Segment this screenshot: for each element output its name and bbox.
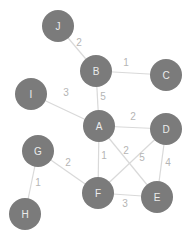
node-label: C xyxy=(162,70,169,81)
node-i: I xyxy=(15,78,47,110)
node-label: F xyxy=(95,188,101,199)
node-h: H xyxy=(9,198,41,230)
edge-weight-label: 4 xyxy=(165,157,171,168)
edge-weight-label: 2 xyxy=(65,157,71,168)
graph-svg: 215322154213 ABCDEFGHIJ xyxy=(0,0,193,240)
graph-diagram: 215322154213 ABCDEFGHIJ xyxy=(0,0,193,240)
edge-weight-label: 3 xyxy=(63,87,69,98)
node-label: J xyxy=(56,21,61,32)
node-label: H xyxy=(21,209,28,220)
edge-weight-label: 1 xyxy=(35,177,41,188)
edge-weight-label: 2 xyxy=(76,37,82,48)
node-label: D xyxy=(162,124,169,135)
node-b: B xyxy=(80,55,112,87)
node-d: D xyxy=(150,113,182,145)
edge-weight-label: 2 xyxy=(123,145,129,156)
node-f: F xyxy=(82,177,114,209)
node-label: E xyxy=(154,192,161,203)
node-g: G xyxy=(22,135,54,167)
edge-weight-label: 2 xyxy=(130,111,136,122)
edge-weight-label: 5 xyxy=(100,91,106,102)
node-label: I xyxy=(30,89,33,100)
nodes-layer: ABCDEFGHIJ xyxy=(9,10,182,230)
node-c: C xyxy=(150,59,182,91)
edge-weight-label: 1 xyxy=(123,57,129,68)
node-a: A xyxy=(83,110,115,142)
edge-weight-label: 5 xyxy=(139,152,145,163)
node-label: B xyxy=(93,66,100,77)
node-e: E xyxy=(141,181,173,213)
edge-weight-label: 1 xyxy=(101,150,107,161)
node-j: J xyxy=(42,10,74,42)
node-label: G xyxy=(34,146,42,157)
edge-weight-label: 3 xyxy=(122,198,128,209)
node-label: A xyxy=(96,121,103,132)
